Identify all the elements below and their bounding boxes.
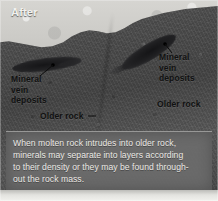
label-older-rock-right: Older rock: [157, 99, 201, 110]
caption-line-2: minerals may separate into layers accord…: [13, 149, 205, 161]
caption-line-3: to their density or they may be found th…: [13, 161, 205, 173]
label-mineral-vein-deposits-right: Mineral vein deposits: [159, 52, 195, 84]
panel-title: After: [11, 6, 38, 18]
label-older-rock-left: Older rock: [40, 111, 84, 122]
page-bottom-margin: [0, 190, 218, 201]
caption-line-1: When molten rock intrudes into older roc…: [13, 137, 205, 149]
label-mineral-vein-deposits-left: Mineral vein deposits: [11, 74, 47, 106]
after-intrusion-diagram: After Mineral vein deposits Older rock M…: [0, 0, 218, 201]
caption-line-4: out the rock mass.: [13, 173, 205, 185]
caption-panel: When molten rock intrudes into older roc…: [6, 131, 212, 190]
